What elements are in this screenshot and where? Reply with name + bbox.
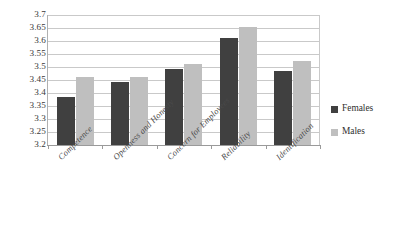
x-axis-tick [266,145,267,149]
bar-chart: 3.73.653.63.553.53.453.43.353.33.253.2 C… [0,0,399,241]
x-axis-tick [48,145,49,149]
y-axis-tick-3-25: 3.25 [2,127,46,136]
bar-males-reliability [239,27,257,145]
bar-females-identification [274,71,292,145]
y-axis-tick-3-5: 3.5 [2,62,46,71]
x-axis-tick [102,145,103,149]
y-axis-tick-3-4: 3.4 [2,88,46,97]
bar-females-openness-and-honesty [111,82,129,145]
y-axis-tick-3-3: 3.3 [2,114,46,123]
y-axis-tick-3-65: 3.65 [2,23,46,32]
legend-swatch-males-icon [331,129,338,136]
legend-item-females: Females [331,101,397,117]
bar-group [211,15,265,145]
y-axis-tick-3-35: 3.35 [2,101,46,110]
legend-swatch-females-icon [331,106,338,113]
bar-females-reliability [220,38,238,145]
y-axis-tick-labels: 3.73.653.63.553.53.453.43.353.33.253.2 [0,0,46,241]
bar-group [48,15,102,145]
x-axis-tick [211,145,212,149]
x-axis-tick [157,145,158,149]
legend-label-females: Females [342,104,373,113]
y-axis-tick-3-2: 3.2 [2,140,46,149]
y-axis-tick-3-6: 3.6 [2,36,46,45]
x-axis-tick [320,145,321,149]
y-axis-tick-3-45: 3.45 [2,75,46,84]
legend: Females Males [331,101,397,147]
legend-label-males: Males [342,127,365,136]
y-axis-tick-3-55: 3.55 [2,49,46,58]
y-axis-tick-3-7: 3.7 [2,10,46,19]
legend-item-males: Males [331,124,397,140]
